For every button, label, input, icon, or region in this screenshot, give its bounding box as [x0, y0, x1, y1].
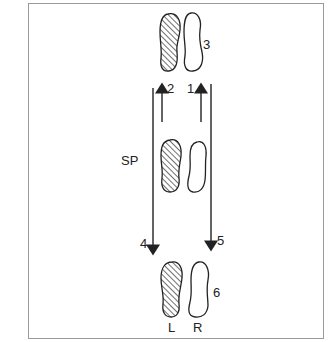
footprints-top: [160, 13, 203, 71]
label-step-2: 2: [167, 82, 174, 95]
left-foot-hatched-icon: [160, 14, 180, 71]
right-foot-outline-icon: [189, 262, 209, 317]
right-foot-outline-icon: [188, 142, 206, 193]
left-foot-hatched-icon: [161, 262, 182, 317]
label-left-foot: L: [168, 321, 175, 334]
label-step-6: 6: [213, 286, 220, 299]
label-right-foot: R: [193, 321, 202, 334]
label-step-5: 5: [217, 234, 224, 247]
label-step-1: 1: [187, 82, 194, 95]
footprints-bottom: [161, 262, 209, 317]
label-step-3: 3: [203, 38, 210, 51]
footprints-start-position: [161, 140, 206, 192]
label-start-position: SP: [121, 154, 138, 167]
left-foot-hatched-icon: [161, 140, 181, 192]
label-step-4: 4: [140, 237, 147, 250]
footstep-diagram: [0, 0, 330, 342]
right-foot-outline-icon: [184, 13, 203, 71]
